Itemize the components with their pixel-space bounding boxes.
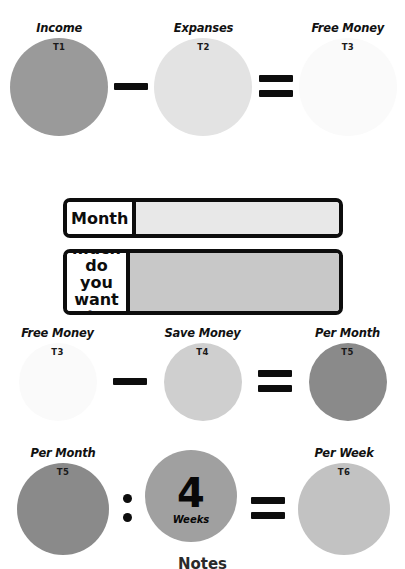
equals-icon-top	[258, 370, 292, 377]
equals-icon-top	[251, 497, 285, 504]
divide-dot-top-icon	[123, 494, 132, 503]
save-amount-field-label: How much do you want to save?	[67, 253, 130, 311]
disc-save-money[interactable]: T4	[164, 343, 242, 421]
term-save-money: Save Money T4	[147, 327, 258, 421]
term-weeks: 4 Weeks	[132, 447, 250, 542]
disc-code-t4: T4	[196, 347, 208, 357]
term-free-money-2: Free Money T3	[2, 327, 113, 421]
operator-equals-row3	[251, 447, 285, 569]
footer-note: Notes	[0, 556, 405, 569]
minus-icon	[113, 378, 147, 385]
term-title-per-month: Per Month	[315, 327, 380, 340]
term-title-income: Income	[36, 22, 82, 35]
disc-code-t5: T5	[341, 347, 353, 357]
disc-per-month-2[interactable]: T5	[17, 463, 109, 555]
term-title-save-money: Save Money	[164, 327, 240, 340]
operator-equals-row2	[258, 327, 292, 435]
equals-icon-bottom	[258, 385, 292, 392]
disc-income[interactable]: T1	[10, 38, 108, 136]
disc-code-t3-b: T3	[51, 347, 63, 357]
weeks-label: Weeks	[173, 514, 210, 525]
disc-per-month[interactable]: T5	[309, 343, 387, 421]
equals-icon-bottom	[251, 512, 285, 519]
operator-divide-row3	[123, 447, 132, 569]
term-income: Income T1	[4, 22, 114, 136]
disc-code-t3: T3	[342, 42, 354, 52]
worksheet-canvas: Income T1 Expanses T2 Free Money T3 M	[0, 0, 405, 569]
operator-equals-row1	[259, 22, 293, 150]
equals-icon-bottom	[259, 90, 293, 97]
equation-row-weeks: Per Month T5 4 Weeks Per Week T6	[0, 447, 405, 569]
equals-icon-top	[259, 75, 293, 82]
term-expanses: Expanses T2	[148, 22, 258, 136]
month-field-label: Month	[67, 202, 136, 234]
disc-expanses[interactable]: T2	[154, 38, 252, 136]
save-amount-input[interactable]	[130, 253, 343, 311]
save-amount-field-box[interactable]: How much do you want to save?	[63, 249, 343, 315]
disc-per-week[interactable]: T6	[298, 463, 390, 555]
term-title-per-week: Per Week	[314, 447, 373, 460]
minus-icon	[114, 83, 148, 90]
term-title-free-money-2: Free Money	[21, 327, 94, 340]
disc-code-t5-b: T5	[57, 467, 69, 477]
term-title-free-money: Free Money	[311, 22, 384, 35]
term-per-week: Per Week T6	[285, 447, 403, 555]
equation-row-save: Free Money T3 Save Money T4 Per Month T5	[0, 327, 405, 435]
disc-free-money[interactable]: T3	[299, 38, 397, 136]
term-title-per-month-2: Per Month	[30, 447, 95, 460]
weeks-number: 4	[177, 473, 205, 513]
disc-code-t1: T1	[53, 42, 65, 52]
term-per-month-2: Per Month T5	[4, 447, 122, 555]
operator-minus-row2	[113, 327, 147, 435]
divide-dot-bottom-icon	[123, 513, 132, 522]
operator-minus-row1	[114, 22, 148, 150]
equation-row-income: Income T1 Expanses T2 Free Money T3	[0, 22, 405, 150]
disc-weeks[interactable]: 4 Weeks	[145, 450, 237, 542]
disc-code-t6: T6	[338, 467, 350, 477]
disc-code-t2: T2	[197, 42, 209, 52]
disc-free-money-2[interactable]: T3	[19, 343, 97, 421]
term-title-expanses: Expanses	[174, 22, 233, 35]
term-free-money: Free Money T3	[293, 22, 403, 136]
month-input[interactable]	[136, 202, 343, 234]
month-field-box[interactable]: Month	[63, 198, 343, 238]
term-per-month: Per Month T5	[292, 327, 403, 421]
